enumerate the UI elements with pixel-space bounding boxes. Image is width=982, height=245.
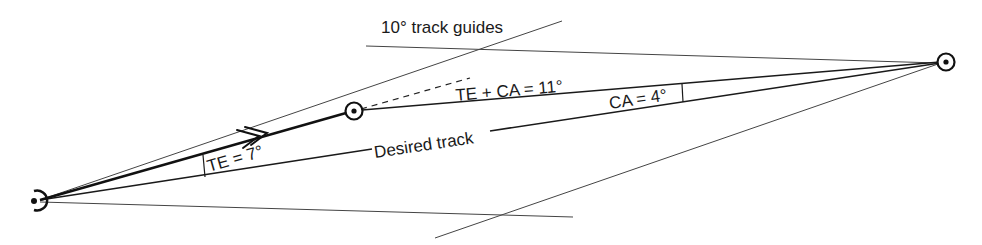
closing-angle-label: CA = 4°	[608, 86, 668, 113]
desired-track-label: Desired track	[373, 128, 475, 162]
track-error-diagram: 10° track guides TE = 7° Desired track T…	[0, 0, 982, 245]
total-correction-label: TE + CA = 11°	[455, 77, 564, 105]
origin-fix-icon	[31, 191, 47, 211]
desired-track-line-right	[490, 63, 940, 131]
upper-guide-from-origin	[40, 21, 562, 200]
destination-fix-icon	[938, 54, 955, 71]
upper-guide-to-destination	[366, 46, 938, 63]
extended-track-dashed	[361, 78, 470, 109]
track-guides-label: 10° track guides	[381, 18, 503, 37]
lower-guide-from-origin	[40, 202, 573, 217]
track-guides	[40, 21, 938, 238]
actual-track-line	[40, 113, 346, 200]
ca-angle-tick	[682, 84, 683, 102]
position-fix-icon	[346, 103, 363, 120]
